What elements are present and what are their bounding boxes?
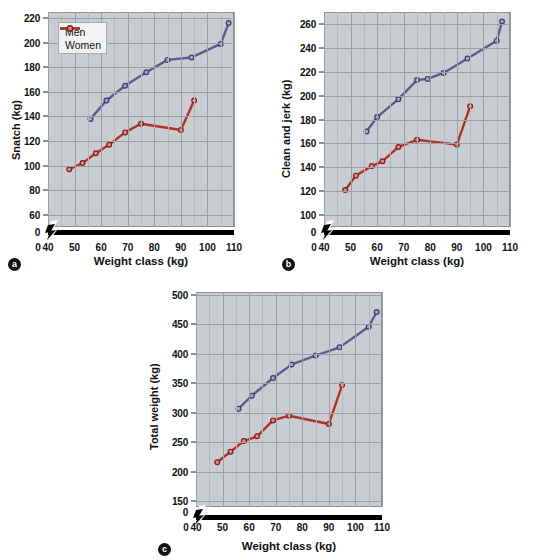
gridline-vertical: [128, 12, 129, 227]
y-axis-tick-label: 500: [172, 289, 188, 300]
gridline-vertical: [194, 12, 195, 227]
y-axis-tick-label: 400: [172, 348, 188, 359]
y-axis-tick-mark: [191, 294, 196, 295]
y-axis-tick-mark: [191, 471, 196, 472]
gridline-vertical: [141, 12, 142, 227]
x-axis-tick-label: 0: [35, 242, 41, 253]
gridline-vertical: [48, 12, 49, 227]
panel-b-tag: b: [282, 258, 295, 271]
panel-a-y-axis-label: Snatch (kg): [10, 100, 22, 160]
series-line-men: [367, 22, 503, 132]
gridline-horizontal: [196, 354, 382, 355]
panel-b-x-axis-label: Weight class (kg): [324, 255, 510, 267]
gridline-horizontal: [48, 67, 234, 68]
y-axis-tick-label: 300: [172, 407, 188, 418]
legend-women-label: Women: [65, 39, 101, 51]
panel-a-x-axis-label: Weight class (kg): [48, 255, 234, 267]
gridline-horizontal: [196, 295, 382, 296]
gridline-horizontal: [324, 191, 510, 192]
data-point-women: [255, 434, 260, 439]
y-axis-tick-mark: [43, 141, 48, 142]
x-axis-tick-label: 60: [96, 242, 107, 253]
legend-women-swatch-icon: [59, 23, 81, 34]
y-axis-tick-mark: [319, 119, 324, 120]
gridline-horizontal: [324, 48, 510, 49]
gridline-horizontal: [48, 92, 234, 93]
panel-b-y-axis-label: Clean and jerk (kg): [280, 80, 292, 178]
data-point-women: [228, 449, 233, 454]
y-axis-tick-label: 200: [24, 37, 40, 48]
y-axis-tick-mark: [319, 215, 324, 216]
y-axis-tick-mark: [43, 214, 48, 215]
gridline-horizontal: [196, 501, 382, 502]
x-axis-tick-label: 100: [347, 522, 364, 533]
gridline-horizontal: [324, 120, 510, 121]
y-axis-tick-mark: [43, 42, 48, 43]
gridline-vertical: [114, 12, 115, 227]
legend-item-women: Women: [62, 38, 101, 51]
gridline-vertical: [181, 12, 182, 227]
y-axis-tick-mark: [191, 383, 196, 384]
x-axis-tick-label: 100: [199, 242, 216, 253]
data-point-women: [396, 145, 401, 150]
y-axis-tick-label: 60: [29, 209, 40, 220]
panel-c: Total weight (kg) Weight class (kg) c 15…: [134, 282, 414, 560]
panel-c-x-axis-bar: [196, 515, 382, 520]
x-axis-tick-label: 110: [226, 242, 242, 253]
gridline-horizontal: [48, 190, 234, 191]
x-axis-tick-label: 0: [311, 242, 317, 253]
panel-c-x-axis-label: Weight class (kg): [196, 540, 382, 552]
y-axis-tick-label-zero: 0: [311, 227, 316, 238]
gridline-horizontal: [324, 96, 510, 97]
x-axis-tick-label: 50: [217, 522, 228, 533]
x-axis-tick-label: 110: [502, 242, 518, 253]
panel-b-axis-break-icon: [318, 219, 340, 241]
panel-a-axis-break-icon: [42, 219, 64, 241]
gridline-horizontal: [48, 166, 234, 167]
gridline-horizontal: [324, 143, 510, 144]
y-axis-tick-label: 220: [24, 13, 40, 24]
gridline-horizontal: [324, 72, 510, 73]
panel-a: Snatch (kg) Weight class (kg) a Men Wome…: [0, 0, 268, 280]
y-axis-tick-label: 150: [172, 496, 188, 507]
x-axis-tick-label: 90: [175, 242, 186, 253]
y-axis-tick-mark: [191, 501, 196, 502]
y-axis-tick-label: 180: [300, 114, 316, 125]
y-axis-tick-label-zero: 0: [183, 507, 188, 518]
x-axis-tick-label: 0: [183, 522, 189, 533]
y-axis-tick-mark: [43, 67, 48, 68]
y-axis-tick-label: 160: [300, 138, 316, 149]
y-axis-tick-mark: [319, 143, 324, 144]
x-axis-tick-label: 90: [451, 242, 462, 253]
gridline-horizontal: [48, 215, 234, 216]
x-axis-tick-label: 80: [425, 242, 436, 253]
panel-a-x-axis-bar: [48, 230, 234, 235]
y-axis-tick-label: 80: [29, 185, 40, 196]
y-axis-tick-label: 180: [24, 62, 40, 73]
x-axis-tick-label: 60: [244, 522, 255, 533]
gridline-vertical: [510, 12, 511, 227]
y-axis-tick-mark: [191, 412, 196, 413]
gridline-horizontal: [196, 472, 382, 473]
x-axis-tick-label: 70: [398, 242, 409, 253]
y-axis-tick-label: 140: [300, 162, 316, 173]
x-axis-tick-label: 40: [42, 242, 53, 253]
data-point-men: [226, 21, 231, 26]
y-axis-tick-label: 120: [24, 136, 40, 147]
y-axis-tick-mark: [319, 71, 324, 72]
y-axis-tick-mark: [319, 23, 324, 24]
y-axis-tick-mark: [319, 47, 324, 48]
y-axis-tick-label: 120: [300, 186, 316, 197]
gridline-vertical: [382, 292, 383, 507]
x-axis-tick-label: 40: [190, 522, 201, 533]
gridline-horizontal: [196, 413, 382, 414]
gridline-horizontal: [324, 215, 510, 216]
gridline-horizontal: [324, 167, 510, 168]
data-point-women: [215, 460, 220, 465]
y-axis-tick-mark: [43, 165, 48, 166]
data-point-women: [353, 173, 358, 178]
x-axis-tick-label: 70: [270, 522, 281, 533]
x-axis-tick-label: 80: [297, 522, 308, 533]
gridline-horizontal: [324, 24, 510, 25]
y-axis-tick-label: 250: [172, 437, 188, 448]
